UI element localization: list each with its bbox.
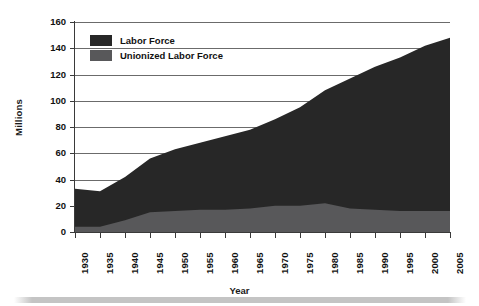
y-tick-label-20: 20 <box>32 201 66 211</box>
x-tick-mark-1945 <box>150 232 151 238</box>
x-axis-title: Year <box>0 285 479 296</box>
legend-item-unionized-labor-force: Unionized Labor Force <box>90 48 270 63</box>
chart-figure: Millions 020406080100120140160 193019351… <box>0 0 479 306</box>
x-tick-label-1965: 1965 <box>254 252 265 274</box>
y-tick-label-100: 100 <box>32 96 66 106</box>
x-tick-label-1955: 1955 <box>204 252 215 274</box>
legend-label-unionized-labor-force: Unionized Labor Force <box>120 50 223 61</box>
x-tick-mark-1975 <box>300 232 301 238</box>
x-tick-label-1935: 1935 <box>104 252 115 274</box>
x-tick-mark-1930 <box>75 232 76 238</box>
x-tick-label-1970: 1970 <box>279 252 290 274</box>
y-tick-label-160: 160 <box>32 17 66 27</box>
x-axis-tick-labels: 1930193519401945195019551960196519701975… <box>75 240 450 286</box>
x-tick-label-2005: 2005 <box>454 252 465 274</box>
x-tick-label-1940: 1940 <box>129 252 140 274</box>
x-tick-mark-1950 <box>175 232 176 238</box>
x-tick-mark-1995 <box>400 232 401 238</box>
x-tick-mark-1990 <box>375 232 376 238</box>
y-axis-tick-labels: 020406080100120140160 <box>26 0 66 306</box>
area-series-labor-force <box>75 38 450 232</box>
x-tick-mark-1955 <box>200 232 201 238</box>
x-tick-label-1950: 1950 <box>179 252 190 274</box>
legend-label-labor-force: Labor Force <box>120 35 175 46</box>
x-tick-mark-2000 <box>425 232 426 238</box>
x-tick-mark-1960 <box>225 232 226 238</box>
y-tick-label-120: 120 <box>32 70 66 80</box>
x-tick-label-1960: 1960 <box>229 252 240 274</box>
x-tick-label-1945: 1945 <box>154 252 165 274</box>
x-tick-mark-1940 <box>125 232 126 238</box>
x-tick-label-1995: 1995 <box>404 252 415 274</box>
y-axis-title: Millions <box>13 78 24 158</box>
x-tick-label-1990: 1990 <box>379 252 390 274</box>
footer-divider-band <box>14 297 466 303</box>
x-tick-mark-1980 <box>325 232 326 238</box>
x-tick-mark-1965 <box>250 232 251 238</box>
x-tick-label-1985: 1985 <box>354 252 365 274</box>
x-tick-label-2000: 2000 <box>429 252 440 274</box>
x-tick-mark-1985 <box>350 232 351 238</box>
legend-item-labor-force: Labor Force <box>90 33 270 48</box>
y-tick-label-80: 80 <box>32 122 66 132</box>
legend-swatch-unionized-labor-force <box>90 50 112 61</box>
x-tick-mark-2005 <box>450 232 451 238</box>
x-tick-mark-1935 <box>100 232 101 238</box>
x-tick-label-1980: 1980 <box>329 252 340 274</box>
x-tick-mark-1970 <box>275 232 276 238</box>
chart-legend: Labor Force Unionized Labor Force <box>90 33 270 63</box>
x-tick-label-1975: 1975 <box>304 252 315 274</box>
x-tick-label-1930: 1930 <box>79 252 90 274</box>
y-tick-label-60: 60 <box>32 148 66 158</box>
y-tick-label-0: 0 <box>32 227 66 237</box>
legend-swatch-labor-force <box>90 35 112 46</box>
y-tick-label-40: 40 <box>32 175 66 185</box>
y-tick-label-140: 140 <box>32 43 66 53</box>
